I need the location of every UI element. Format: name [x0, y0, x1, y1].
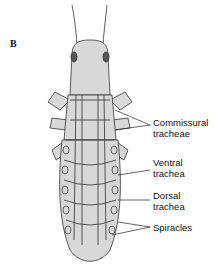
head: [70, 40, 110, 95]
label-line: Spiracles: [153, 222, 192, 233]
thorax: [64, 95, 116, 140]
label-line: trachea: [153, 168, 185, 179]
label-spiracles: Spiracles: [153, 222, 192, 233]
label-line: Dorsal: [153, 190, 185, 201]
eye-right: [103, 52, 109, 62]
label-line: tracheae: [153, 128, 208, 139]
antenna-right: [103, 5, 107, 45]
label-ventral-trachea: Ventral trachea: [153, 157, 185, 179]
label-line: Ventral: [153, 157, 185, 168]
antenna-left: [72, 5, 77, 45]
abdomen: [60, 140, 121, 261]
label-commissural-tracheae: Commissural tracheae: [153, 117, 208, 139]
eye-left: [71, 52, 77, 62]
label-dorsal-trachea: Dorsal trachea: [153, 190, 185, 212]
label-line: trachea: [153, 201, 185, 212]
label-line: Commissural: [153, 117, 208, 128]
